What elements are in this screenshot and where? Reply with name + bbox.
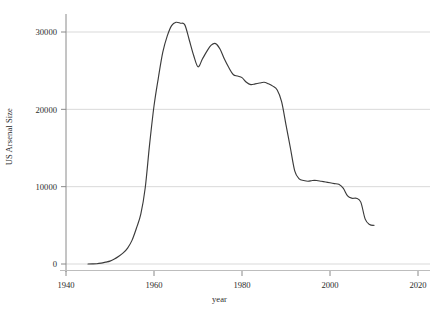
y-tick-label: 0 bbox=[53, 259, 57, 269]
arsenal-size-line bbox=[88, 22, 374, 264]
y-tick-label: 30000 bbox=[36, 27, 57, 37]
line-chart-plot: 0100002000030000 19401960198020002020 bbox=[0, 0, 439, 316]
x-tick-label: 1980 bbox=[233, 280, 250, 290]
y-tick-label: 10000 bbox=[36, 182, 57, 192]
x-tick-label: 1960 bbox=[145, 280, 162, 290]
y-axis-ticks: 0100002000030000 bbox=[36, 27, 66, 269]
x-tick-label: 1940 bbox=[57, 280, 74, 290]
chart-figure: US Arsenal Size year 0100002000030000 19… bbox=[0, 0, 439, 316]
x-tick-label: 2000 bbox=[321, 280, 338, 290]
x-tick-label: 2020 bbox=[409, 280, 426, 290]
x-axis-ticks: 19401960198020002020 bbox=[57, 271, 426, 290]
gridlines bbox=[66, 32, 430, 264]
y-tick-label: 20000 bbox=[36, 105, 57, 115]
